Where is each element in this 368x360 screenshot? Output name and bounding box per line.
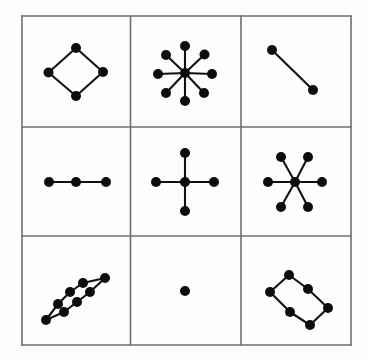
- graph-diamond-cycle-4: [44, 43, 109, 101]
- graph-node: [180, 96, 190, 106]
- graph-node: [276, 202, 286, 212]
- graph-node: [78, 278, 88, 288]
- graph-node: [71, 91, 81, 101]
- graph-node: [71, 43, 81, 53]
- graph-node: [209, 177, 219, 187]
- graph-node: [290, 177, 300, 187]
- graph-edge: [272, 50, 313, 90]
- graph-node: [180, 206, 190, 216]
- graph-cycle-8-rect: [41, 273, 110, 325]
- graph-edge: [49, 48, 77, 73]
- graph-path-3: [44, 177, 111, 187]
- graph-node: [284, 270, 294, 280]
- graph-node: [41, 315, 51, 325]
- graph-node: [285, 307, 295, 317]
- graph-node: [100, 273, 110, 283]
- graph-panels: [41, 41, 333, 330]
- graph-node: [303, 152, 313, 162]
- graph-edge: [76, 72, 103, 96]
- graph-node: [200, 50, 210, 60]
- figure-root: [0, 0, 368, 360]
- graph-node: [267, 45, 277, 55]
- graph-star-8: [153, 41, 217, 106]
- graph-node: [308, 85, 318, 95]
- graph-node: [65, 287, 75, 297]
- graph-node: [44, 68, 54, 78]
- graph-node: [44, 177, 54, 187]
- graph-node: [101, 177, 111, 187]
- graph-edge: [49, 73, 77, 97]
- graph-node: [207, 69, 217, 79]
- graph-star-6: [263, 152, 327, 212]
- graph-node: [263, 177, 273, 187]
- graph-node: [180, 41, 190, 51]
- graph-node: [72, 297, 82, 307]
- graph-node: [53, 299, 63, 309]
- graph-node: [161, 88, 171, 98]
- graph-node: [199, 88, 209, 98]
- graph-edge: [76, 48, 103, 72]
- graph-node: [180, 286, 190, 296]
- graph-node: [305, 320, 315, 330]
- graph-cycle-6-rect: [265, 270, 333, 330]
- graph-node: [59, 307, 69, 317]
- graph-node: [180, 177, 190, 187]
- graph-node: [153, 69, 163, 79]
- graph-node: [161, 50, 171, 60]
- graph-grid-figure: [0, 0, 368, 360]
- graph-node: [317, 177, 327, 187]
- graph-node: [98, 67, 108, 77]
- graph-star-4-cross: [151, 148, 219, 216]
- graph-node: [85, 287, 95, 297]
- graph-node: [303, 284, 313, 294]
- graph-edge-2: [267, 45, 318, 95]
- graph-node: [180, 68, 190, 78]
- graph-node: [303, 202, 313, 212]
- graph-isolated-node: [180, 286, 190, 296]
- graph-node: [180, 148, 190, 158]
- graph-node: [71, 177, 81, 187]
- graph-node: [265, 287, 275, 297]
- graph-node: [276, 152, 286, 162]
- graph-node: [323, 303, 333, 313]
- graph-node: [151, 177, 161, 187]
